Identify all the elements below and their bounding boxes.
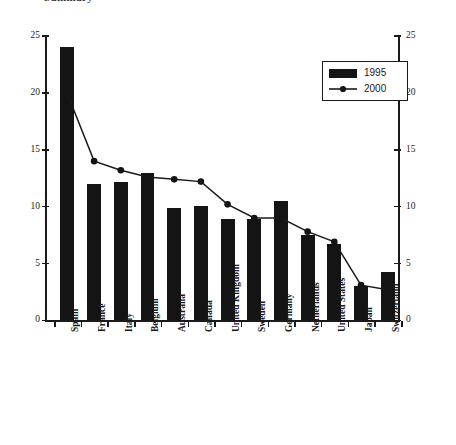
x-category-label: Australia bbox=[178, 294, 188, 332]
page-title: Summary bbox=[44, 0, 93, 5]
x-category-label: Sweden bbox=[258, 301, 268, 332]
x-category-label: United Kingdom bbox=[232, 264, 242, 332]
x-category-label: Spain bbox=[71, 309, 81, 332]
point-2000-netherlands bbox=[304, 228, 311, 235]
point-2000-united-states bbox=[331, 239, 338, 246]
point-2000-canada bbox=[198, 178, 205, 185]
point-2000-italy bbox=[118, 167, 125, 174]
y-tick-label-right: 5 bbox=[406, 259, 432, 269]
x-category-label: Belgium bbox=[151, 298, 161, 332]
x-category-label: Italy bbox=[125, 313, 135, 332]
y-tick-label-right: 0 bbox=[406, 315, 432, 325]
point-2000-germany bbox=[278, 215, 285, 222]
point-2000-australia bbox=[171, 176, 178, 183]
x-category-label: Switzerland bbox=[392, 283, 402, 332]
point-2000-spain bbox=[64, 91, 71, 98]
y-tick-label: 15 bbox=[14, 145, 40, 155]
y-tick-label-right: 25 bbox=[406, 31, 432, 41]
y-tick-label-right: 10 bbox=[406, 202, 432, 212]
x-category-label: Canada bbox=[205, 300, 215, 332]
y-tick-label: 10 bbox=[14, 202, 40, 212]
y-tick-label-right: 15 bbox=[406, 145, 432, 155]
point-2000-belgium bbox=[144, 174, 151, 181]
point-2000-sweden bbox=[251, 215, 258, 222]
chart-legend: 1995 2000 bbox=[322, 61, 408, 101]
y-tick-label: 0 bbox=[14, 315, 40, 325]
y-tick-label: 20 bbox=[14, 88, 40, 98]
chart-canvas: Summary 0510152025 0510152025 1995 2000 … bbox=[0, 0, 456, 445]
legend-entry-1995: 1995 bbox=[329, 65, 386, 81]
x-category-label: Japan bbox=[365, 307, 375, 332]
x-category-label: United States bbox=[338, 278, 348, 332]
y-tick-label: 25 bbox=[14, 31, 40, 41]
y-tick-label: 5 bbox=[14, 259, 40, 269]
x-category-label: France bbox=[98, 304, 108, 333]
legend-label-2000: 2000 bbox=[364, 84, 386, 94]
point-2000-united-kingdom bbox=[224, 201, 231, 208]
legend-label-1995: 1995 bbox=[364, 68, 386, 78]
x-category-label: Germany bbox=[285, 293, 295, 332]
legend-bar-swatch-icon bbox=[329, 69, 357, 78]
x-category-label: Netherlands bbox=[312, 282, 322, 332]
y-tick-label-right: 20 bbox=[406, 88, 432, 98]
legend-entry-2000: 2000 bbox=[329, 81, 386, 97]
line-path-2000 bbox=[67, 94, 387, 290]
legend-line-marker-icon bbox=[329, 84, 357, 94]
point-2000-japan bbox=[358, 282, 365, 289]
point-2000-france bbox=[91, 158, 98, 165]
